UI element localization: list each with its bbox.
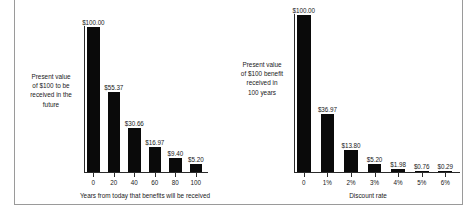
bars-group-left: $100.00$55.37$30.66$16.97$9.40$5.20: [85, 26, 208, 172]
plot-area-right: $100.00$36.97$13.80$5.20$1.98$0.76$0.29 …: [294, 14, 460, 173]
bar[interactable]: [169, 158, 182, 172]
x-axis-tick: [114, 173, 115, 177]
bar-value-label: $36.97: [318, 106, 337, 113]
bar-value-label: $30.66: [125, 120, 144, 127]
bar-slot: $5.20: [368, 14, 382, 172]
x-axis-tick: [375, 173, 376, 177]
x-axis-tick: [93, 173, 94, 177]
bar-value-label: $100.00: [293, 7, 315, 14]
y-axis-caption-left: Present value of $100 to be received in …: [20, 72, 82, 109]
bar-value-label: $16.97: [145, 139, 164, 146]
bar-slot: $55.37: [108, 26, 121, 172]
bar-value-label: $55.37: [104, 84, 123, 91]
bar-slot: $0.76: [415, 14, 429, 172]
bar[interactable]: [344, 150, 358, 172]
bar-slot: $5.20: [190, 26, 203, 172]
bar-value-label: $9.40: [168, 150, 184, 157]
y-axis-caption-right: Present value of $100 benefit received i…: [232, 60, 292, 97]
bar-value-label: $5.20: [367, 156, 383, 163]
x-axis-line: [294, 172, 460, 173]
bar[interactable]: [149, 147, 162, 172]
bar[interactable]: [108, 92, 121, 172]
chart-present-value-by-years: Present value of $100 to be received in …: [18, 0, 238, 222]
bar[interactable]: [190, 164, 203, 172]
x-axis-tick-label: 6%: [441, 179, 450, 187]
bar[interactable]: [391, 169, 405, 172]
x-axis-title-right: Discount rate: [278, 192, 458, 199]
bar-value-label: $13.80: [341, 142, 360, 149]
bar-slot: $0.29: [438, 14, 452, 172]
x-axis-tick-label: 80: [172, 179, 179, 187]
x-axis-tick: [327, 173, 328, 177]
x-axis-tick: [351, 173, 352, 177]
bar-slot: $36.97: [321, 14, 335, 172]
x-axis-tick: [134, 173, 135, 177]
y-caption-line: received in: [232, 78, 292, 87]
bar[interactable]: [87, 27, 100, 172]
bar[interactable]: [368, 164, 382, 172]
x-axis-tick-label: 60: [151, 179, 158, 187]
bar[interactable]: [128, 128, 141, 172]
bar[interactable]: [321, 114, 335, 172]
x-axis-tick: [155, 173, 156, 177]
y-caption-line: Present value: [232, 60, 292, 69]
chart-present-value-by-discount-rate: Present value of $100 benefit received i…: [238, 0, 464, 222]
y-caption-line: of $100 benefit: [232, 69, 292, 78]
x-axis-tick-label: 3%: [370, 179, 379, 187]
x-axis-tick-label: 40: [131, 179, 138, 187]
bar[interactable]: [297, 15, 311, 172]
bar-slot: $16.97: [149, 26, 162, 172]
x-axis-tick-label: 100: [191, 179, 202, 187]
bar-slot: $1.98: [391, 14, 405, 172]
x-axis-title-left: Years from today that benefits will be r…: [60, 192, 230, 199]
x-axis-line: [84, 172, 208, 173]
x-axis-tick: [445, 173, 446, 177]
bar-value-label: $100.00: [82, 19, 104, 26]
x-axis-tick: [304, 173, 305, 177]
bar-value-label: $0.76: [414, 163, 430, 170]
y-caption-line: future: [20, 100, 82, 109]
bar-value-label: $1.98: [390, 161, 406, 168]
figure-container: Present value of $100 to be received in …: [0, 0, 476, 222]
x-axis-tick: [175, 173, 176, 177]
bar-value-label: $0.29: [437, 163, 453, 170]
bar-slot: $100.00: [87, 26, 100, 172]
x-axis-tick: [422, 173, 423, 177]
x-axis-tick-label: 20: [110, 179, 117, 187]
x-axis-tick-label: 0: [302, 179, 306, 187]
bar[interactable]: [415, 171, 429, 173]
x-axis-tick-label: 0: [92, 179, 96, 187]
y-caption-line: received in the: [20, 90, 82, 99]
bar-slot: $9.40: [169, 26, 182, 172]
bar-slot: $100.00: [297, 14, 311, 172]
x-axis-tick-label: 4%: [394, 179, 403, 187]
bar-value-label: $5.20: [188, 156, 204, 163]
x-axis-tick-label: 1%: [323, 179, 332, 187]
bar-slot: $13.80: [344, 14, 358, 172]
x-axis-tick-label: 5%: [417, 179, 426, 187]
x-axis-tick: [196, 173, 197, 177]
bars-group-right: $100.00$36.97$13.80$5.20$1.98$0.76$0.29: [295, 14, 460, 172]
bar-slot: $30.66: [128, 26, 141, 172]
bar[interactable]: [438, 171, 452, 173]
x-axis-tick: [398, 173, 399, 177]
plot-area-left: $100.00$55.37$30.66$16.97$9.40$5.20 0204…: [84, 26, 208, 173]
y-caption-line: Present value: [20, 72, 82, 81]
y-caption-line: of $100 to be: [20, 81, 82, 90]
y-caption-line: 100 years: [232, 88, 292, 97]
x-axis-tick-label: 2%: [346, 179, 355, 187]
